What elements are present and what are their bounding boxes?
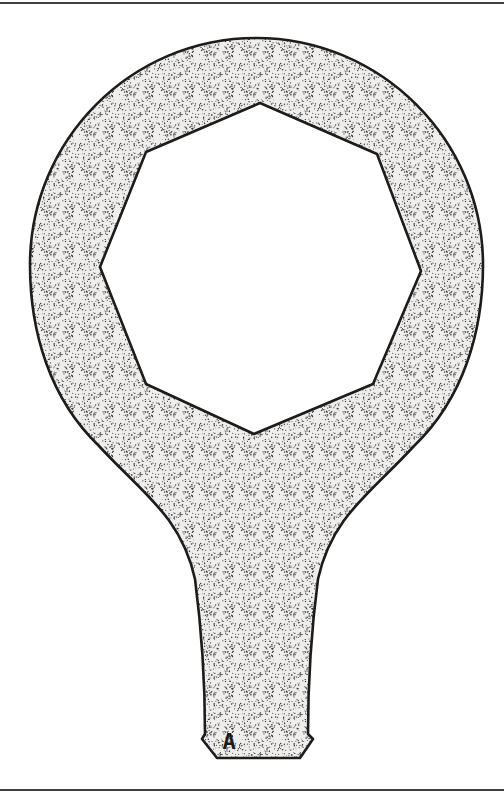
figure-page: A [0, 0, 504, 800]
wrench-figure: A [0, 0, 504, 800]
part-label-a: A [222, 729, 235, 754]
wrench-body-outline [30, 38, 483, 758]
